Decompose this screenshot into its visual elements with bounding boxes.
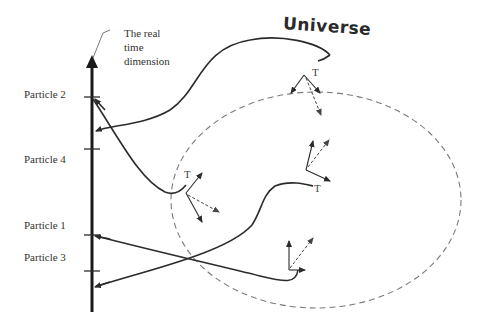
axis-title-line-3: dimension	[124, 54, 194, 68]
worldline-particle-1	[96, 236, 298, 281]
worldline-particle-3	[96, 183, 313, 286]
particle-label: Particle 2	[24, 87, 66, 101]
frame-t-label: T	[184, 168, 191, 180]
axis-title-leader	[93, 30, 110, 58]
particle-label: Particle 3	[24, 250, 66, 264]
diagram-canvas	[0, 0, 481, 324]
axis-title-line-2: time	[124, 40, 194, 54]
time-axis	[84, 55, 100, 312]
axis-title-line-1: The real	[124, 26, 194, 40]
axis-title: The real time dimension	[124, 26, 194, 68]
worldline-particle-2	[93, 99, 186, 193]
local-frame-right	[306, 140, 330, 181]
local-frame-left	[186, 173, 219, 222]
particle-label: Particle 4	[24, 152, 66, 166]
axis-arrow-icon	[86, 55, 98, 68]
universe-boundary	[171, 92, 461, 308]
local-frame-bottom	[289, 238, 313, 270]
local-frame-top	[291, 75, 321, 115]
frame-t-label: T	[314, 182, 321, 194]
frame-t-label: T	[312, 66, 319, 78]
particle-label: Particle 1	[24, 218, 66, 232]
